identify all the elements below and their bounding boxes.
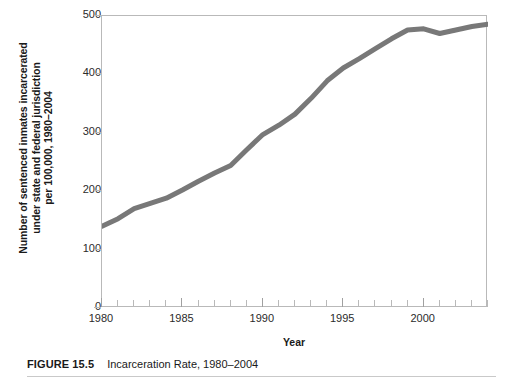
x-tick-mark-1984: [165, 300, 166, 307]
x-tick-mark-1997: [374, 300, 375, 307]
x-tick-mark-1981: [117, 300, 118, 307]
plot-area: [101, 15, 487, 307]
x-tick-mark-1983: [149, 300, 150, 307]
data-series-line: [102, 24, 488, 226]
x-tick-label-1995: 1995: [320, 312, 364, 324]
x-tick-mark-1986: [198, 300, 199, 307]
x-tick-mark-1998: [391, 300, 392, 307]
figure-caption: FIGURE 15.5Incarceration Rate, 1980–2004: [27, 358, 497, 370]
x-tick-mark-2000: [423, 298, 424, 307]
x-axis-ticks: 19801985199019952000: [101, 307, 488, 337]
figure-container: Number of sentenced inmates incarcerated…: [0, 0, 517, 387]
y-tick-mark-300: [94, 132, 101, 133]
y-axis-ticks: 0100200300400500: [58, 0, 101, 340]
x-tick-mark-1988: [230, 300, 231, 307]
y-axis-title-line-1: Number of sentenced inmates incarcerated: [17, 23, 30, 273]
x-tick-mark-2004: [487, 300, 488, 307]
x-tick-mark-1992: [294, 300, 295, 307]
x-tick-mark-1996: [358, 300, 359, 307]
figure-caption-text: Incarceration Rate, 1980–2004: [107, 358, 258, 370]
y-tick-mark-100: [94, 249, 101, 250]
x-tick-mark-1990: [262, 298, 263, 307]
x-tick-mark-1985: [181, 298, 182, 307]
x-tick-mark-1993: [310, 300, 311, 307]
y-tick-mark-500: [94, 15, 101, 16]
x-tick-mark-2002: [455, 300, 456, 307]
y-tick-mark-200: [94, 190, 101, 191]
x-tick-mark-1994: [326, 300, 327, 307]
x-tick-mark-2003: [471, 300, 472, 307]
y-axis-title-line-3: per 100,000, 1980–2004: [42, 23, 55, 273]
x-tick-mark-1995: [342, 298, 343, 307]
y-axis-title-line-2: under state and federal jurisdiction: [30, 23, 43, 273]
x-tick-label-1985: 1985: [159, 312, 203, 324]
x-tick-mark-1999: [407, 300, 408, 307]
chart-line-svg: [102, 16, 488, 308]
x-tick-mark-1982: [133, 300, 134, 307]
x-tick-label-1980: 1980: [79, 312, 123, 324]
x-tick-mark-1980: [101, 298, 102, 307]
figure-number: FIGURE 15.5: [27, 358, 94, 370]
y-tick-mark-400: [94, 73, 101, 74]
x-axis-title: Year: [101, 336, 487, 348]
x-tick-mark-1989: [246, 300, 247, 307]
y-tick-mark-0: [94, 307, 101, 308]
x-tick-mark-1987: [214, 300, 215, 307]
x-tick-label-1990: 1990: [240, 312, 284, 324]
x-tick-mark-2001: [439, 300, 440, 307]
x-tick-mark-1991: [278, 300, 279, 307]
caption-divider: [27, 376, 496, 377]
x-tick-label-2000: 2000: [401, 312, 445, 324]
